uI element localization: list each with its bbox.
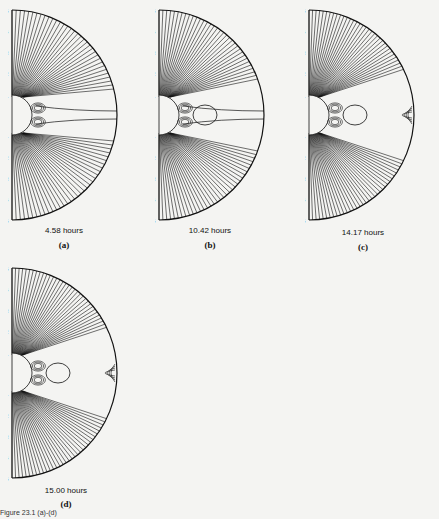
svg-text:3: 3	[305, 176, 306, 182]
svg-text:5: 5	[8, 218, 9, 223]
panel-b: 5432112345	[155, 8, 280, 223]
panel-c: 5432112345	[305, 8, 430, 223]
field-line-diagram-c: 5432112345	[305, 8, 430, 223]
svg-text:5: 5	[8, 266, 9, 272]
field-line-diagram-b: 5432112345	[155, 8, 280, 223]
svg-text:5: 5	[305, 8, 306, 14]
svg-text:4: 4	[155, 29, 156, 35]
svg-text:1: 1	[305, 93, 306, 99]
svg-text:2: 2	[155, 155, 156, 161]
time-label-a: 4.58 hours	[14, 226, 114, 235]
svg-text:5: 5	[305, 218, 306, 223]
svg-text:1: 1	[305, 133, 306, 139]
svg-text:2: 2	[8, 413, 9, 419]
field-line-diagram-d: 5432112345	[8, 266, 133, 481]
svg-text:2: 2	[305, 71, 306, 77]
svg-text:1: 1	[8, 93, 9, 99]
panel-letter-b: (b)	[160, 240, 260, 250]
panel-letter-a: (a)	[14, 240, 114, 250]
svg-text:5: 5	[155, 8, 156, 14]
panel-a: 5432112345	[8, 8, 133, 223]
svg-text:2: 2	[8, 329, 9, 335]
svg-text:3: 3	[155, 50, 156, 56]
svg-text:2: 2	[155, 71, 156, 77]
svg-text:5: 5	[155, 218, 156, 223]
svg-text:4: 4	[305, 197, 306, 203]
svg-text:3: 3	[155, 176, 156, 182]
svg-text:1: 1	[8, 133, 9, 139]
time-label-b: 10.42 hours	[160, 226, 260, 235]
svg-text:3: 3	[8, 50, 9, 56]
svg-text:4: 4	[305, 29, 306, 35]
panel-d: 5432112345	[8, 266, 133, 481]
svg-text:5: 5	[8, 476, 9, 481]
svg-text:4: 4	[8, 197, 9, 203]
svg-text:2: 2	[305, 155, 306, 161]
svg-text:1: 1	[155, 133, 156, 139]
svg-text:3: 3	[8, 434, 9, 440]
panel-letter-c: (c)	[313, 242, 413, 252]
svg-text:1: 1	[8, 351, 9, 357]
svg-text:4: 4	[8, 455, 9, 461]
svg-text:3: 3	[305, 50, 306, 56]
svg-text:5: 5	[8, 8, 9, 14]
svg-text:2: 2	[8, 155, 9, 161]
field-line-diagram-a: 5432112345	[8, 8, 133, 223]
svg-text:3: 3	[8, 176, 9, 182]
time-label-c: 14.17 hours	[313, 228, 413, 237]
svg-text:3: 3	[8, 308, 9, 314]
svg-text:2: 2	[8, 71, 9, 77]
svg-text:4: 4	[155, 197, 156, 203]
svg-text:4: 4	[8, 29, 9, 35]
figure-caption: Figure 23.1 (a)-(d)	[0, 509, 57, 516]
svg-text:1: 1	[155, 93, 156, 99]
panel-letter-d: (d)	[16, 499, 116, 509]
svg-text:4: 4	[8, 287, 9, 293]
time-label-d: 15.00 hours	[16, 486, 116, 495]
svg-text:1: 1	[8, 391, 9, 397]
